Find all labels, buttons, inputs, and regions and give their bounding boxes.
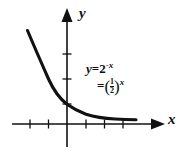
exponential-decay-figure: y x y=2-x =(12)x [0,0,184,159]
equation-exponent-negative-x: -x [106,60,114,70]
x-axis-label: x [168,112,176,127]
equation-fraction-one-half: 12 [110,78,114,95]
y-axis-label: y [79,6,86,21]
equation-line-1: y=2-x [86,60,124,77]
equation-exponent-x: x [120,77,125,87]
equation-fraction-numerator: 1 [110,78,114,86]
y-axis-arrowhead [62,8,73,22]
equation-annotation: y=2-x =(12)x [86,60,124,94]
x-axis-arrowhead [151,119,165,130]
equation-fraction-denominator: 2 [110,86,114,95]
equation-line-2: =(12)x [86,77,124,94]
